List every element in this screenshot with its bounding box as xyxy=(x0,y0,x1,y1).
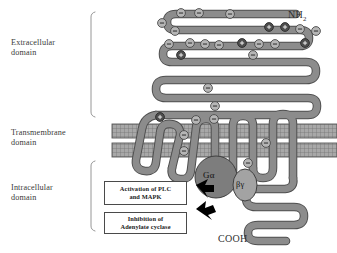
signal-arrows xyxy=(196,179,216,220)
signal-box-inhibition: Inhibition of Adenylate cyclase xyxy=(104,212,187,234)
figure-canvas: Extracellular domain Transmembrane domai… xyxy=(0,0,337,253)
label-c-terminus: COOH xyxy=(218,233,248,244)
membrane-band-inner xyxy=(112,143,337,157)
label-n-terminus: NH2 xyxy=(288,9,307,22)
domain-brackets xyxy=(91,12,95,231)
g-alpha-subunit xyxy=(195,156,237,198)
bracket-extracellular xyxy=(91,12,95,117)
label-beta-gamma: βγ xyxy=(236,180,244,189)
label-g-alpha: Gα xyxy=(203,170,215,180)
label-extracellular-domain: Extracellular domain xyxy=(11,38,55,58)
signal-box-activation: Activation of PLC and MAPK xyxy=(104,181,187,205)
arrow-to-cyclase-box xyxy=(196,201,216,220)
label-transmembrane-domain: Transmembrane domain xyxy=(11,128,66,148)
n-terminus-text: NH xyxy=(288,9,303,20)
n-terminus-subscript: 2 xyxy=(303,15,307,22)
label-intracellular-domain: Intracellular domain xyxy=(11,183,53,203)
bracket-intracellular xyxy=(91,161,95,231)
